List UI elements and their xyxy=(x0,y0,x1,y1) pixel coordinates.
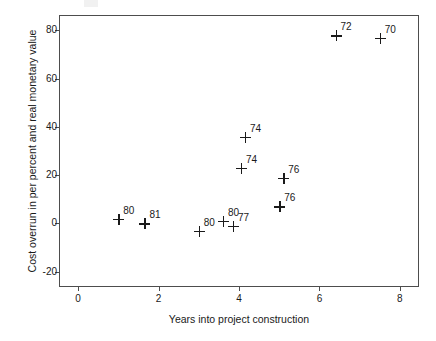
scatter-plot-figure: -20020406080024688081808077747476767270 … xyxy=(0,0,436,341)
y-tick-label: 60 xyxy=(46,73,57,84)
x-axis-title: Years into project construction xyxy=(59,313,419,325)
x-tick-mark xyxy=(78,286,79,291)
data-point-label: 80 xyxy=(204,218,215,228)
data-point-label: 80 xyxy=(123,206,134,216)
data-point-label: 77 xyxy=(238,213,249,223)
x-tick-label: 8 xyxy=(397,293,403,304)
x-tick-label: 6 xyxy=(317,293,323,304)
y-tick-label: 80 xyxy=(46,24,57,35)
x-tick-label: 4 xyxy=(236,293,242,304)
y-tick-label: 20 xyxy=(46,169,57,180)
x-tick-label: 0 xyxy=(75,293,81,304)
data-point-label: 76 xyxy=(288,165,299,175)
plot-area: -20020406080024688081808077747476767270 xyxy=(60,16,418,286)
x-tick-mark xyxy=(319,286,320,291)
y-tick-label: 40 xyxy=(46,121,57,132)
data-point-label: 70 xyxy=(385,25,396,35)
data-point-label: 74 xyxy=(246,155,257,165)
y-tick-label: -20 xyxy=(43,266,57,277)
data-point-label: 74 xyxy=(250,124,261,134)
y-axis-title: Cost overrun in per percent and real mon… xyxy=(24,15,40,287)
x-tick-mark xyxy=(400,286,401,291)
x-tick-mark xyxy=(239,286,240,291)
x-tick-mark xyxy=(159,286,160,291)
data-point-label: 81 xyxy=(149,210,160,220)
data-point-label: 76 xyxy=(284,193,295,203)
plot-frame: -20020406080024688081808077747476767270 xyxy=(59,15,419,287)
x-tick-label: 2 xyxy=(156,293,162,304)
scan-artifact xyxy=(84,0,98,7)
y-tick-label: 0 xyxy=(51,217,57,228)
data-point-label: 72 xyxy=(341,22,352,32)
